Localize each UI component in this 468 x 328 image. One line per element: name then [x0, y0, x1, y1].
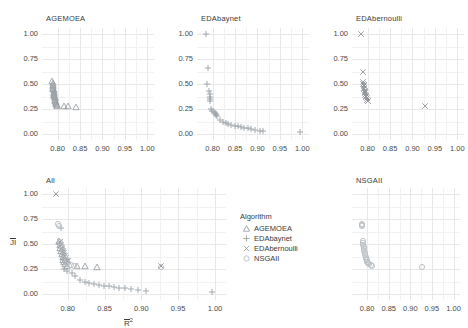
legend: AlgorithmAGEMOEAEDAbaynetEDAbernoulliNSG… — [240, 212, 298, 264]
gridline-horizontal — [197, 59, 309, 60]
gridline-horizontal — [352, 109, 464, 110]
gridline-horizontal — [197, 134, 309, 135]
x-tick-label: 0.80 — [54, 304, 82, 313]
data-point-edabernoulli — [52, 191, 59, 198]
gridline-horizontal-minor — [197, 97, 309, 98]
gridline-horizontal — [352, 34, 464, 35]
legend-item-agemoea[interactable]: AGEMOEA — [240, 224, 298, 233]
legend-item-edabaynet[interactable]: EDAbaynet — [240, 234, 298, 243]
gridline-horizontal-minor — [352, 47, 464, 48]
gridline-horizontal — [352, 84, 464, 85]
gridline-horizontal-minor — [42, 47, 154, 48]
gridline-horizontal — [352, 244, 460, 245]
gridline-vertical-minor — [269, 28, 270, 140]
gridline-horizontal-minor — [42, 232, 226, 233]
cross-icon — [240, 244, 252, 253]
gridline-vertical-minor — [291, 28, 292, 140]
data-point-edabaynet — [209, 289, 216, 296]
gridline-vertical — [58, 28, 59, 140]
legend-item-edabernoulli[interactable]: EDAbernoulli — [240, 244, 298, 253]
gridline-vertical-minor — [69, 28, 70, 140]
gridline-horizontal — [197, 34, 309, 35]
panel-title-edabernoulli: EDAbernoulli — [356, 14, 402, 23]
x-tick-label: 1.00 — [288, 144, 316, 153]
y-tick-label: 0.25 — [322, 104, 348, 113]
y-tick-label: 0.75 — [167, 54, 193, 63]
gridline-vertical — [125, 28, 126, 140]
gridline-vertical — [80, 28, 81, 140]
gridline-horizontal-minor — [352, 282, 460, 283]
legend-item-nsgaii[interactable]: NSGAII — [240, 254, 298, 263]
gridline-horizontal — [42, 219, 226, 220]
facet-panel-edabernoulli: EDAbernoulli0.000.250.500.751.000.800.85… — [318, 14, 466, 166]
gridline-vertical — [390, 28, 391, 140]
gridline-horizontal-minor — [352, 122, 464, 123]
plot-area-edabaynet — [197, 28, 309, 140]
gridline-horizontal-minor — [352, 207, 460, 208]
data-point-edabaynet — [259, 128, 266, 135]
y-tick-label: 0.00 — [322, 129, 348, 138]
gridline-vertical — [389, 188, 390, 300]
y-tick-label: 0.50 — [12, 79, 38, 88]
y-tick-label: 0.00 — [12, 289, 38, 298]
gridline-vertical-minor — [401, 28, 402, 140]
data-point-agemoea — [81, 263, 88, 270]
gridline-horizontal — [42, 244, 226, 245]
gridline-vertical-minor — [114, 28, 115, 140]
gridline-horizontal — [352, 134, 464, 135]
legend-title: Algorithm — [240, 212, 298, 221]
y-tick-label: 1.00 — [322, 29, 348, 38]
gridline-vertical-minor — [91, 28, 92, 140]
circle-icon — [240, 254, 252, 263]
y-tick-label: 0.50 — [167, 79, 193, 88]
gridline-vertical-minor — [421, 188, 422, 300]
panel-title-nsgaii: NSGAII — [356, 176, 383, 185]
y-tick-label: 1.00 — [12, 29, 38, 38]
legend-item-label: EDAbaynet — [254, 234, 292, 243]
data-point-edabaynet — [297, 129, 304, 136]
panel-title-edabaynet: EDAbaynet — [201, 14, 241, 23]
gridline-vertical — [178, 188, 179, 300]
gridline-vertical-minor — [123, 188, 124, 300]
gridline-vertical-minor — [160, 188, 161, 300]
gridline-horizontal-minor — [352, 232, 460, 233]
gridline-vertical-minor — [136, 28, 137, 140]
data-point-edabernoulli — [357, 31, 364, 38]
x-tick-label: 1.00 — [440, 304, 468, 313]
gridline-vertical — [147, 28, 148, 140]
gridline-vertical — [215, 188, 216, 300]
gridline-vertical — [213, 28, 214, 140]
data-point-edabaynet — [205, 65, 212, 72]
gridline-horizontal — [352, 269, 460, 270]
data-point-edabaynet — [207, 97, 214, 104]
legend-item-label: AGEMOEA — [254, 224, 292, 233]
gridline-horizontal-minor — [197, 72, 309, 73]
x-tick-label: 1.00 — [443, 144, 468, 153]
x-tick-label: 1.00 — [201, 304, 229, 313]
data-point-edabaynet — [142, 287, 149, 294]
gridline-vertical — [412, 28, 413, 140]
y-tick-label: 0.00 — [167, 129, 193, 138]
data-point-edabernoulli — [365, 98, 372, 105]
y-tick-label: 0.50 — [322, 79, 348, 88]
gridline-horizontal — [42, 84, 154, 85]
y-tick-label: 0.25 — [167, 104, 193, 113]
gridline-horizontal-minor — [42, 207, 226, 208]
gridline-horizontal-minor — [197, 122, 309, 123]
gridline-horizontal — [42, 34, 154, 35]
gridline-vertical — [141, 188, 142, 300]
gridline-horizontal-minor — [197, 47, 309, 48]
x-tick-label: 0.90 — [127, 304, 155, 313]
y-axis-label-text: JI — [10, 238, 16, 247]
gridline-horizontal — [352, 59, 464, 60]
facet-panel-all: All0.000.250.500.751.000.800.850.900.951… — [8, 176, 228, 326]
gridline-horizontal — [42, 194, 226, 195]
gridline-horizontal — [352, 294, 460, 295]
gridline-vertical — [280, 28, 281, 140]
gridline-vertical — [457, 28, 458, 140]
data-point-nsgaii — [369, 262, 376, 269]
gridline-vertical — [68, 188, 69, 300]
gridline-horizontal — [197, 84, 309, 85]
gridline-vertical-minor — [446, 28, 447, 140]
gridline-horizontal-minor — [42, 122, 154, 123]
